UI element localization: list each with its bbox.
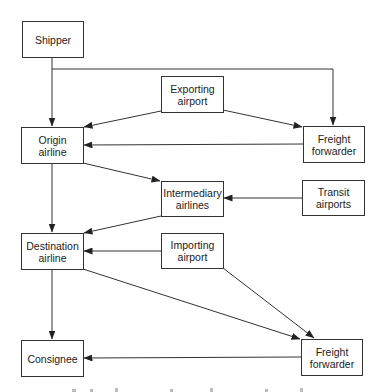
- cropped-caption-fragment: [60, 386, 320, 392]
- node-label: Freight forwarder: [312, 133, 356, 157]
- edge-exporting-forwarder: [223, 110, 302, 127]
- edge-importing-forwarder: [223, 268, 314, 338]
- node-label: Shipper: [35, 34, 71, 46]
- edge-destination-forwarder: [83, 269, 300, 339]
- node-label: Consignee: [27, 353, 77, 365]
- node-shipper: Shipper: [22, 21, 84, 58]
- node-label: Destination airline: [26, 240, 79, 264]
- edge-exporting-origin: [84, 111, 161, 127]
- node-freight-forwarder-bottom: Freight forwarder: [301, 339, 363, 376]
- edge-forwarder-consignee: [84, 357, 301, 358]
- node-intermediary-airlines: Intermediary airlines: [161, 181, 224, 217]
- node-label: Transit airports: [316, 186, 351, 210]
- node-exporting-airport: Exporting airport: [161, 76, 224, 113]
- node-label: Origin airline: [38, 134, 66, 158]
- node-label: Importing airport: [171, 239, 215, 263]
- node-importing-airport: Importing airport: [161, 233, 224, 269]
- edge-forwarder-origin: [84, 144, 303, 145]
- node-origin-airline: Origin airline: [21, 127, 84, 164]
- node-label: Exporting airport: [170, 83, 214, 107]
- edge-origin-intermediary: [83, 163, 160, 181]
- node-destination-airline: Destination airline: [21, 233, 84, 270]
- node-consignee: Consignee: [21, 340, 84, 377]
- edge-intermediary-destination: [84, 216, 161, 233]
- node-label: Freight forwarder: [310, 346, 354, 370]
- node-transit-airports: Transit airports: [302, 180, 365, 216]
- node-label: Intermediary airlines: [163, 187, 221, 211]
- node-freight-forwarder-top: Freight forwarder: [303, 126, 365, 163]
